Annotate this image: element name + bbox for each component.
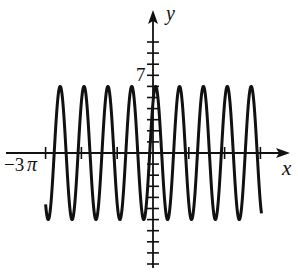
y-tick-label-7: 7 xyxy=(136,64,146,85)
x-tick-label-minus-3: −3 xyxy=(4,154,24,175)
x-tick-label-pi: π xyxy=(27,153,38,175)
x-axis-label: x xyxy=(281,156,292,180)
y-axis-label: y xyxy=(164,2,175,25)
sinusoid-chart: y x 7 −3 π xyxy=(0,0,298,273)
